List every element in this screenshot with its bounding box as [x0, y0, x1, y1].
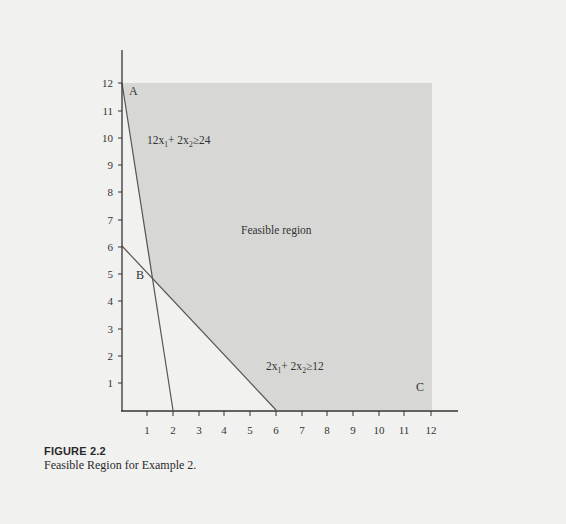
svg-text:12: 12: [426, 424, 437, 436]
svg-text:10: 10: [374, 424, 386, 436]
svg-text:8: 8: [108, 186, 114, 198]
point-a-label: A: [129, 84, 138, 98]
feasible-region-label: Feasible region: [241, 224, 312, 237]
point-b-label: B: [136, 268, 144, 282]
svg-text:12: 12: [102, 77, 113, 89]
svg-text:1: 1: [144, 424, 150, 436]
figure-caption: FIGURE 2.2 Feasible Region for Example 2…: [44, 445, 196, 473]
svg-text:11: 11: [102, 105, 113, 117]
svg-text:6: 6: [108, 241, 114, 253]
svg-text:2: 2: [108, 350, 114, 362]
svg-text:9: 9: [108, 159, 114, 171]
figure-title: Feasible Region for Example 2.: [44, 458, 196, 473]
x-tick-labels: 1 2 3 4 5 6 7 8 9 10 11 12: [144, 424, 436, 436]
svg-text:10: 10: [102, 132, 114, 144]
svg-text:8: 8: [324, 424, 330, 436]
svg-text:6: 6: [273, 424, 279, 436]
svg-text:4: 4: [221, 424, 227, 436]
y-tick-labels: 1 2 3 4 5 6 7 8 9 10 11 12: [102, 77, 114, 389]
svg-text:3: 3: [196, 424, 202, 436]
x-ticks: [147, 411, 431, 416]
svg-text:2: 2: [170, 424, 176, 436]
svg-text:7: 7: [299, 424, 305, 436]
svg-text:5: 5: [108, 268, 114, 280]
svg-text:1: 1: [108, 377, 114, 389]
svg-text:9: 9: [350, 424, 356, 436]
point-c-label: C: [416, 380, 424, 394]
svg-text:5: 5: [247, 424, 253, 436]
svg-text:3: 3: [108, 323, 114, 335]
figure-number: FIGURE 2.2: [44, 445, 196, 457]
svg-text:4: 4: [108, 295, 114, 307]
svg-text:11: 11: [399, 424, 410, 436]
svg-text:7: 7: [108, 214, 114, 226]
